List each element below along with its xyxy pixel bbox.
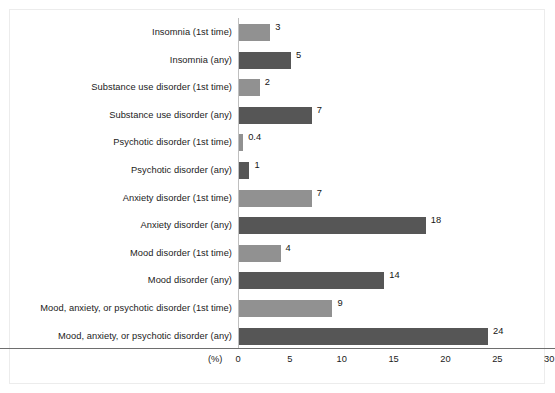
plot-area: Insomnia (1st time)3Insomnia (any)5Subst… bbox=[0, 0, 555, 393]
bar-row: Insomnia (any)5 bbox=[0, 47, 555, 75]
bar-row: Mood, anxiety, or psychotic disorder (1s… bbox=[0, 295, 555, 323]
bar-container bbox=[239, 24, 270, 41]
bar-row: Anxiety disorder (any)18 bbox=[0, 212, 555, 240]
bar-container bbox=[239, 190, 312, 207]
bar-container bbox=[239, 245, 281, 262]
bar-category-label: Mood, anxiety, or psychotic disorder (1s… bbox=[40, 295, 232, 323]
bar-any bbox=[239, 328, 488, 345]
x-tick-label: 10 bbox=[337, 354, 347, 364]
chart-figure: Insomnia (1st time)3Insomnia (any)5Subst… bbox=[0, 0, 555, 393]
bar-container bbox=[239, 162, 249, 179]
bar-value-label: 4 bbox=[286, 240, 291, 257]
bar-first-time bbox=[239, 190, 312, 207]
bar-value-label: 9 bbox=[337, 295, 342, 312]
bar-row: Mood disorder (1st time)4 bbox=[0, 240, 555, 268]
bar-container bbox=[239, 272, 384, 289]
bar-container bbox=[239, 300, 332, 317]
bar-row: Psychotic disorder (any)1 bbox=[0, 157, 555, 185]
bar-first-time bbox=[239, 134, 243, 151]
bar-category-label: Anxiety disorder (1st time) bbox=[123, 185, 232, 213]
bar-category-label: Substance use disorder (any) bbox=[109, 102, 232, 130]
x-axis-line bbox=[0, 348, 555, 349]
x-tick-label: 25 bbox=[492, 354, 502, 364]
bar-value-label: 3 bbox=[275, 19, 280, 36]
bar-category-label: Psychotic disorder (any) bbox=[131, 157, 232, 185]
bar-category-label: Anxiety disorder (any) bbox=[140, 212, 232, 240]
bar-category-label: Psychotic disorder (1st time) bbox=[113, 129, 232, 157]
bar-any bbox=[239, 217, 426, 234]
bar-any bbox=[239, 272, 384, 289]
x-tick-label: 20 bbox=[440, 354, 450, 364]
bar-row: Mood, anxiety, or psychotic disorder (an… bbox=[0, 323, 555, 351]
bar-first-time bbox=[239, 79, 260, 96]
bar-category-label: Mood, anxiety, or psychotic disorder (an… bbox=[58, 323, 232, 351]
bar-rows: Insomnia (1st time)3Insomnia (any)5Subst… bbox=[0, 19, 555, 350]
bar-value-label: 18 bbox=[431, 212, 441, 229]
bar-row: Psychotic disorder (1st time)0.4 bbox=[0, 129, 555, 157]
bar-row: Substance use disorder (1st time)2 bbox=[0, 74, 555, 102]
bar-value-label: 7 bbox=[317, 102, 322, 119]
x-tick-label: 15 bbox=[388, 354, 398, 364]
bar-container bbox=[239, 328, 488, 345]
bar-category-label: Insomnia (1st time) bbox=[152, 19, 232, 47]
bar-first-time bbox=[239, 300, 332, 317]
bar-category-label: Substance use disorder (1st time) bbox=[91, 74, 232, 102]
bar-value-label: 24 bbox=[493, 323, 503, 340]
bar-row: Anxiety disorder (1st time)7 bbox=[0, 185, 555, 213]
bar-container bbox=[239, 134, 243, 151]
bar-first-time bbox=[239, 245, 281, 262]
bar-category-label: Mood disorder (1st time) bbox=[130, 240, 232, 268]
bar-container bbox=[239, 217, 426, 234]
bar-row: Substance use disorder (any)7 bbox=[0, 102, 555, 130]
bar-any bbox=[239, 52, 291, 69]
bar-value-label: 14 bbox=[389, 267, 399, 284]
bar-any bbox=[239, 107, 312, 124]
x-tick-label: 0 bbox=[235, 354, 240, 364]
bar-container bbox=[239, 79, 260, 96]
bar-value-label: 7 bbox=[317, 185, 322, 202]
x-tick-label: 5 bbox=[287, 354, 292, 364]
bar-row: Mood disorder (any)14 bbox=[0, 267, 555, 295]
bar-container bbox=[239, 52, 291, 69]
bar-row: Insomnia (1st time)3 bbox=[0, 19, 555, 47]
x-axis-unit-label: (%) bbox=[208, 354, 222, 364]
bar-first-time bbox=[239, 24, 270, 41]
bar-value-label: 5 bbox=[296, 47, 301, 64]
x-tick-label: 30 bbox=[544, 354, 554, 364]
x-axis-span bbox=[238, 348, 550, 349]
bar-value-label: 1 bbox=[254, 157, 259, 174]
bar-any bbox=[239, 162, 249, 179]
bar-category-label: Mood disorder (any) bbox=[148, 267, 232, 295]
bar-container bbox=[239, 107, 312, 124]
bar-value-label: 0.4 bbox=[248, 129, 261, 146]
bar-category-label: Insomnia (any) bbox=[170, 47, 232, 75]
bar-value-label: 2 bbox=[265, 74, 270, 91]
